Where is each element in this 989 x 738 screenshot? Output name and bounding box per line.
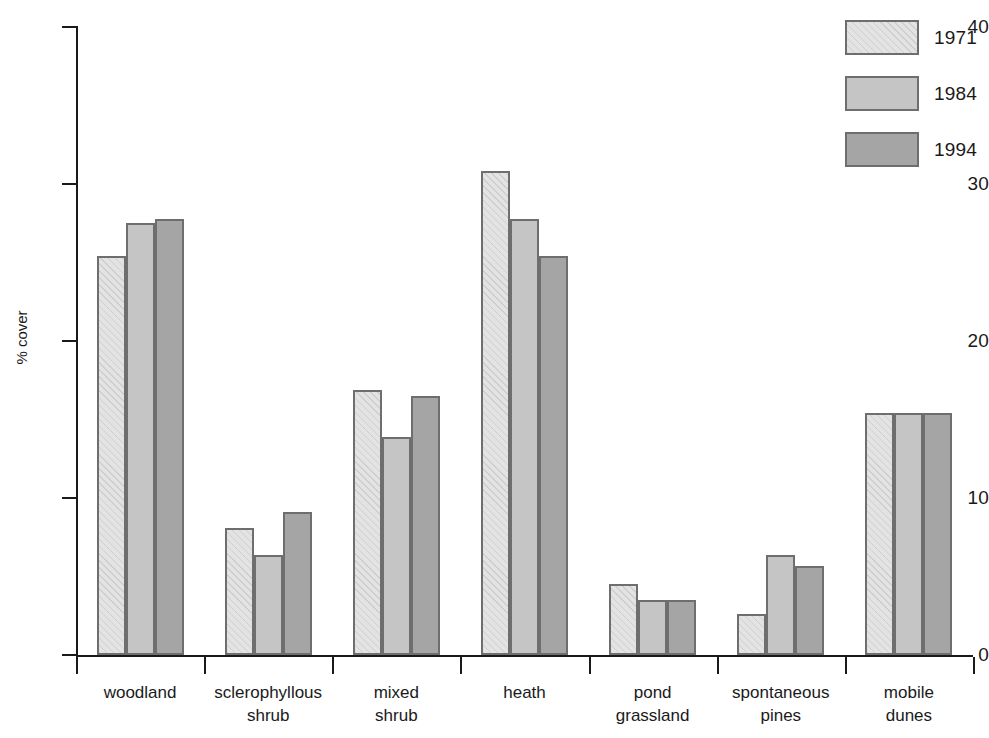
y-axis-title: % cover [14, 298, 29, 378]
x-axis-category-label-line: sclerophyllous [204, 681, 332, 704]
bar [283, 512, 312, 655]
x-axis-category-label: sclerophyllousshrub [204, 681, 332, 727]
x-axis-category-label: woodland [76, 681, 204, 704]
bar [382, 437, 411, 655]
bar [254, 555, 283, 655]
legend-item: 1994 [845, 132, 985, 167]
legend-swatch [845, 20, 919, 55]
legend-label: 1984 [934, 84, 977, 103]
bar [766, 555, 795, 655]
x-axis-line [76, 655, 973, 657]
bar [638, 600, 667, 655]
bar [225, 528, 254, 655]
legend-item: 1984 [845, 76, 985, 111]
x-axis-category-label-line: pond [589, 681, 717, 704]
x-axis-category-label-line: spontaneous [717, 681, 845, 704]
x-axis-category-label-line: dunes [845, 704, 973, 727]
x-axis-category-label: heath [460, 681, 588, 704]
x-axis-category-label-line: heath [460, 681, 588, 704]
y-axis-tick-label: 20 [945, 331, 989, 350]
bar [126, 223, 155, 655]
legend-item: 1971 [845, 20, 985, 55]
y-axis-tick [62, 497, 78, 499]
bar-chart: 010203040 % cover woodlandsclerophyllous… [0, 0, 989, 738]
bar [667, 600, 696, 655]
x-axis-tick [332, 657, 334, 674]
legend-label: 1971 [934, 28, 977, 47]
x-axis-category-label-line: mixed [332, 681, 460, 704]
y-axis-tick [62, 183, 78, 185]
x-axis-category-label-line: woodland [76, 681, 204, 704]
x-axis-category-label: pondgrassland [589, 681, 717, 727]
bar [795, 566, 824, 655]
x-axis-category-label: mixedshrub [332, 681, 460, 727]
legend-swatch [845, 132, 919, 167]
bar [894, 413, 923, 655]
legend-label: 1994 [934, 140, 977, 159]
x-axis-category-label-line: grassland [589, 704, 717, 727]
x-axis-tick [460, 657, 462, 674]
x-axis-tick [845, 657, 847, 674]
x-axis-category-label-line: mobile [845, 681, 973, 704]
bar [539, 256, 568, 655]
x-axis-tick [717, 657, 719, 674]
x-axis-category-label-line: pines [717, 704, 845, 727]
x-axis-category-label-line: shrub [204, 704, 332, 727]
bar [865, 413, 894, 655]
bar [737, 614, 766, 655]
bar [411, 396, 440, 655]
y-axis-tick [62, 340, 78, 342]
legend: 197119841994 [845, 20, 985, 180]
x-axis-tick [589, 657, 591, 674]
bar [609, 584, 638, 655]
x-axis-tick [204, 657, 206, 674]
x-axis-category-label: spontaneouspines [717, 681, 845, 727]
bar [353, 390, 382, 655]
x-axis-tick [973, 657, 975, 674]
x-axis-category-label-line: shrub [332, 704, 460, 727]
bar [155, 219, 184, 655]
x-axis-category-label: mobiledunes [845, 681, 973, 727]
bar [923, 413, 952, 655]
y-axis-tick [62, 26, 78, 28]
x-axis-tick [76, 657, 78, 674]
bar [97, 256, 126, 655]
bar [481, 171, 510, 655]
bar [510, 219, 539, 655]
legend-swatch [845, 76, 919, 111]
